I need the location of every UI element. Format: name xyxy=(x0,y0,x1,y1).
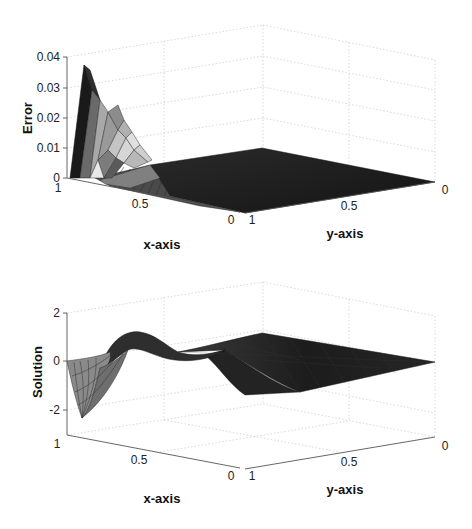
x-tick: 1 xyxy=(55,181,62,195)
y-tick: 0.5 xyxy=(341,455,358,469)
x-tick: 1 xyxy=(54,437,61,451)
error-y-label: y-axis xyxy=(327,226,364,241)
x-tick: 0.5 xyxy=(131,453,148,467)
y-tick: 0 xyxy=(442,183,449,197)
solution-z-label: Solution xyxy=(30,346,45,398)
z-tick: -2 xyxy=(49,403,60,417)
z-tick: 0.04 xyxy=(37,50,61,64)
x-tick: 0 xyxy=(228,469,235,483)
z-tick: 0.01 xyxy=(37,141,61,155)
y-tick: 0.5 xyxy=(341,199,358,213)
x-tick: 0 xyxy=(228,213,235,227)
solution-surface xyxy=(67,332,435,418)
error-x-label: x-axis xyxy=(144,237,181,252)
z-tick: 0.03 xyxy=(37,81,61,95)
x-tick: 0.5 xyxy=(132,197,149,211)
z-tick: 0 xyxy=(53,354,60,368)
figure: 0.04 0.03 0.02 0.01 0 1 0.5 0 1 0.5 0 Er… xyxy=(0,0,472,529)
solution-x-axis xyxy=(67,435,240,468)
z-tick: 2 xyxy=(53,306,60,320)
error-z-label: Error xyxy=(20,102,35,134)
solution-plot: 2 0 -2 1 0.5 0 1 0.5 0 Solution x-axis y… xyxy=(30,282,449,506)
y-tick: 1 xyxy=(249,469,256,483)
error-plot: 0.04 0.03 0.02 0.01 0 1 0.5 0 1 0.5 0 Er… xyxy=(20,25,449,252)
solution-y-label: y-axis xyxy=(327,482,364,497)
y-tick: 1 xyxy=(249,213,256,227)
y-tick: 0 xyxy=(442,439,449,453)
z-tick: 0.02 xyxy=(37,111,61,125)
solution-x-label: x-axis xyxy=(144,491,181,506)
